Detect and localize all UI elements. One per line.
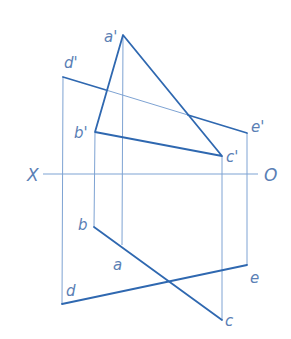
label-b-top: b [78,216,88,234]
label-c-top: c [225,312,234,330]
label-c-front: c' [226,148,238,166]
label-e-front: e' [251,118,264,136]
projector-a [122,35,123,245]
axis-label-x: X [26,165,39,185]
label-b-front: b' [74,124,88,142]
projector-d [62,77,63,304]
label-e-top: e [250,269,259,287]
axis-label-o: O [264,165,277,185]
de-front-hidden [106,90,188,115]
projector-b [94,132,95,227]
label-a-top: a [113,256,122,274]
projector-lines [62,35,247,320]
label-d-top: d [66,282,76,300]
front-triangle-abc [95,35,222,156]
projection-diagram: X O a' d' b' e' c' b a d e c [0,0,291,339]
de-front-visible-left [63,77,106,90]
front-line-de [63,77,247,133]
label-d-front: d' [64,54,78,72]
label-a-front: a' [104,28,117,46]
